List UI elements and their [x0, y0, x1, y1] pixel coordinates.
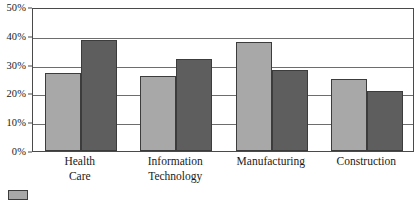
x-axis-label: Manufacturing — [223, 154, 319, 169]
bar-series-b — [272, 70, 308, 151]
bar-group — [33, 9, 129, 151]
y-tick-label: 10% — [6, 118, 26, 129]
y-tick-label: 20% — [6, 89, 26, 100]
bar-group — [129, 9, 225, 151]
x-axis-label: Health Care — [32, 154, 128, 184]
bar-group — [224, 9, 320, 151]
bar-series-a — [140, 76, 176, 151]
bar-series-b — [176, 59, 212, 151]
bar-series-a — [45, 73, 81, 151]
y-tick-label: 30% — [6, 60, 26, 71]
bars-layer — [33, 9, 413, 151]
bar-series-b — [367, 91, 403, 151]
x-axis-label: Information Technology — [128, 154, 224, 184]
y-tick-label: 0% — [12, 147, 26, 158]
x-axis-labels: Health CareInformation TechnologyManufac… — [32, 154, 414, 194]
bar-series-a — [331, 79, 367, 151]
legend-swatch-series-a — [8, 190, 28, 200]
x-axis-label: Construction — [319, 154, 415, 169]
bar-series-a — [236, 42, 272, 151]
y-tick-label: 40% — [6, 32, 26, 43]
legend — [8, 190, 33, 200]
bar-series-b — [81, 40, 117, 151]
plot-area — [32, 8, 414, 152]
bar-group — [320, 9, 416, 151]
y-axis: 50%40%30%20%10%0% — [0, 0, 32, 160]
y-tick-label: 50% — [6, 3, 26, 14]
bar-chart-figure: 50%40%30%20%10%0% Health CareInformation… — [0, 0, 420, 200]
